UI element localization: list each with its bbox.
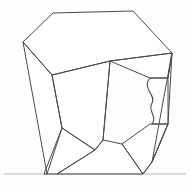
figure-root: [0, 0, 190, 192]
notch-s-curve: [147, 78, 154, 124]
rock-line-drawing: [0, 0, 190, 192]
